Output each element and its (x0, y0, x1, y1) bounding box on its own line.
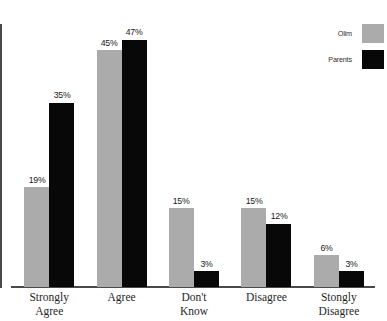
bar-column[interactable]: 35% (49, 24, 74, 287)
category-line: Strongly (13, 291, 85, 305)
bar-value-label: 19% (28, 175, 45, 185)
category-line: Agree (85, 291, 157, 305)
category-label-stongly-disagree: Stongly Disagree (303, 291, 375, 321)
bar-value-label: 35% (53, 90, 70, 100)
bar-value-label: 3% (345, 259, 357, 269)
bar-parents[interactable] (339, 271, 364, 287)
bar-column[interactable]: 15% (169, 24, 194, 287)
bar-value-label: 15% (173, 196, 190, 206)
bar-value-label: 12% (271, 211, 288, 221)
bar-column[interactable]: 19% (24, 24, 49, 287)
bar-group: 45% 47% (85, 24, 157, 287)
bar-value-label: 47% (126, 27, 143, 37)
bar-parents[interactable] (266, 224, 291, 287)
bar-column[interactable]: 47% (122, 24, 147, 287)
bar-olim[interactable] (169, 208, 194, 287)
category-label-disagree: Disagree (230, 291, 302, 321)
legend-label: Olim (338, 29, 352, 38)
legend-item-parents[interactable]: Parents (296, 48, 384, 70)
bar-group: 19% 35% (13, 24, 85, 287)
bar-olim[interactable] (314, 255, 339, 287)
bar-parents[interactable] (49, 103, 74, 287)
bar-parents[interactable] (194, 271, 219, 287)
category-label-strongly-agree: Strongly Agree (13, 291, 85, 321)
bar-column[interactable]: 15% (241, 24, 266, 287)
bar-column[interactable]: 3% (194, 24, 219, 287)
category-line: Know (158, 305, 230, 319)
category-line: Agree (13, 305, 85, 319)
legend-item-olim[interactable]: Olim (296, 22, 384, 44)
legend-swatch-icon (362, 50, 384, 69)
category-line: Don't (158, 291, 230, 305)
bar-parents[interactable] (122, 40, 147, 287)
bar-group: 15% 3% (158, 24, 230, 287)
legend-label: Parents (328, 55, 352, 64)
bar-olim[interactable] (241, 208, 266, 287)
bar-group: 15% 12% (230, 24, 302, 287)
bar-value-label: 45% (101, 38, 118, 48)
bar-value-label: 15% (246, 196, 263, 206)
bar-column[interactable]: 45% (97, 24, 122, 287)
legend-swatch-icon (362, 24, 384, 43)
category-label-agree: Agree (85, 291, 157, 321)
bar-value-label: 6% (320, 243, 332, 253)
category-line: Disagree (303, 305, 375, 319)
bar-olim[interactable] (97, 50, 122, 287)
chart-legend: Olim Parents (296, 22, 384, 74)
x-axis-category-labels: Strongly Agree Agree Don't Know Disagree… (13, 291, 375, 321)
category-line: Stongly (303, 291, 375, 305)
bar-chart: 19% 35% 45% 47% 15% (0, 0, 387, 321)
bar-column[interactable]: 12% (266, 24, 291, 287)
category-label-dont-know: Don't Know (158, 291, 230, 321)
bar-olim[interactable] (24, 187, 49, 287)
y-axis-line (0, 24, 2, 288)
bar-value-label: 3% (200, 259, 212, 269)
category-line: Disagree (230, 291, 302, 305)
